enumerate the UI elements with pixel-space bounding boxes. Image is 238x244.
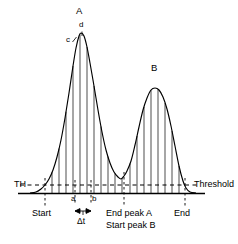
start-peak-b-label: Start peak B (106, 221, 156, 230)
signal-curve (30, 33, 196, 193)
threshold-right-label: Threshold (194, 180, 234, 189)
sampling-interval-lines (52, 35, 179, 194)
point-d-label: d (79, 21, 83, 29)
end-label: End (174, 209, 190, 218)
delta-t-arrow (75, 209, 91, 215)
peak-b-label: B (151, 63, 157, 73)
delta-t-label: Δt (77, 217, 85, 226)
peak-detection-figure: TH Threshold A B c d a b Δt Start End pe… (0, 0, 238, 244)
leader-c (73, 37, 77, 42)
point-a-label: a (71, 195, 75, 203)
point-c-label: c (66, 36, 70, 44)
peak-a-label: A (76, 6, 82, 16)
start-label: Start (32, 209, 51, 218)
end-peak-a-label: End peak A (106, 209, 152, 218)
point-b-label: b (92, 195, 96, 203)
threshold-left-label: TH (14, 180, 26, 189)
